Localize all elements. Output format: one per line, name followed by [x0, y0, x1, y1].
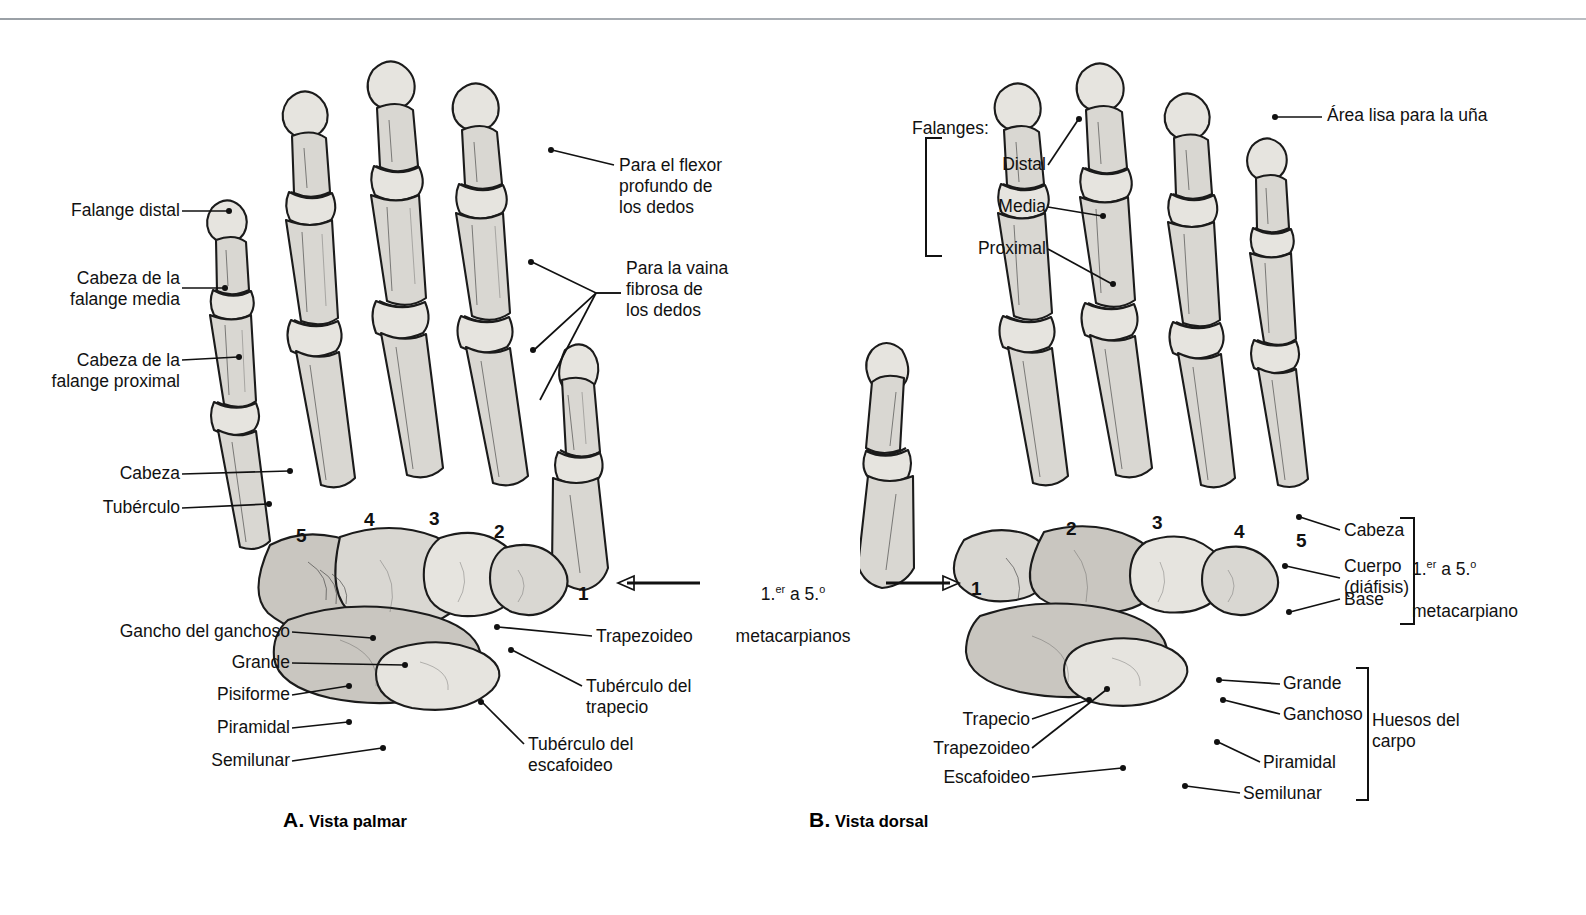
digit5-bones	[207, 200, 270, 549]
label-huesos-del-carpo: Huesos del carpo	[1372, 710, 1512, 752]
label-falange-distal: Falange distal	[10, 200, 180, 221]
label-cabeza: Cabeza	[10, 463, 180, 484]
label-falanges-group: Falanges:	[912, 118, 1052, 139]
label-proximal-b: Proximal	[900, 238, 1046, 259]
label-trapecio-b: Trapecio	[880, 709, 1030, 730]
digit4-bones	[283, 91, 355, 487]
panel-b-caption: B. Vista dorsal	[809, 808, 928, 832]
carpal-bones-dorsal	[954, 526, 1278, 706]
label-piramidal-b: Piramidal	[1263, 752, 1393, 773]
label-piramidal: Piramidal	[60, 717, 290, 738]
label-distal-b: Distal	[900, 154, 1046, 175]
header-rule	[0, 18, 1586, 20]
label-bracket-metacarpiano: 1.er a 5.o metacarpiano	[1412, 538, 1572, 622]
label-escafoideo-b: Escafoideo	[880, 767, 1030, 788]
bracket-metacarpiano-line1: 1.er a 5.o	[1412, 559, 1476, 579]
label-semilunar: Semilunar	[60, 750, 290, 771]
label-cabeza-falange-proximal: Cabeza de la falange proximal	[10, 350, 180, 392]
label-pisiforme: Pisiforme	[60, 684, 290, 705]
label-media-b: Media	[900, 196, 1046, 217]
center-callout-line2: metacarpianos	[736, 626, 851, 646]
metacarpal-number-b-4: 4	[1234, 521, 1245, 543]
bracket-metacarpiano-line2: metacarpiano	[1412, 601, 1518, 621]
metacarpal-number-4: 4	[364, 509, 375, 531]
label-grande: Grande	[60, 652, 290, 673]
metacarpal-number-b-3: 3	[1152, 512, 1163, 534]
panel-a-caption: A. Vista palmar	[283, 808, 407, 832]
metacarpal-number-2: 2	[494, 521, 505, 543]
label-tuberculo-del-trapecio: Tubérculo del trapecio	[586, 676, 806, 718]
panel-a-letter: A.	[283, 808, 305, 831]
metacarpal-number-5: 5	[296, 525, 307, 547]
top-cropped-heading	[770, 0, 1570, 9]
panel-b-caption-text: Vista dorsal	[835, 812, 928, 830]
carpal-bones-palmar	[258, 528, 567, 710]
metacarpal-number-b-5: 5	[1296, 530, 1307, 552]
metacarpal-number-3: 3	[429, 508, 440, 530]
label-vaina-fibrosa: Para la vaina fibrosa de los dedos	[626, 258, 826, 321]
digit3-bones-dorsal	[1077, 63, 1152, 477]
label-semilunar-b: Semilunar	[1243, 783, 1373, 804]
label-tuberculo: Tubérculo	[10, 497, 180, 518]
figure-canvas: 5 4 3 2 1 Falange distal Cabeza de la fa…	[0, 0, 1586, 915]
label-gancho-del-ganchoso: Gancho del ganchoso	[0, 621, 290, 642]
digit5-bones-dorsal	[1247, 138, 1308, 487]
label-area-lisa-una: Área lisa para la uña	[1327, 105, 1586, 126]
label-tuberculo-del-escafoideo: Tubérculo del escafoideo	[528, 734, 748, 776]
digit4-bones-dorsal	[1165, 93, 1235, 487]
label-trapezoideo-b: Trapezoideo	[860, 738, 1030, 759]
label-flexor-profundo: Para el flexor profundo de los dedos	[619, 155, 819, 218]
digit2-bones-dorsal	[995, 83, 1068, 485]
thumb-bones-dorsal	[860, 343, 914, 588]
label-cabeza-falange-media: Cabeza de la falange media	[10, 268, 180, 310]
digit2-bones	[453, 83, 528, 485]
label-grande-b: Grande	[1283, 673, 1413, 694]
digit3-bones	[368, 61, 443, 477]
thumb-bones	[552, 344, 608, 590]
center-callout-line1: 1.er a 5.o	[761, 584, 825, 604]
metacarpal-number-1: 1	[578, 583, 589, 605]
panel-a-caption-text: Vista palmar	[309, 812, 407, 830]
panel-b-letter: B.	[809, 808, 831, 831]
metacarpal-number-b-1: 1	[971, 578, 982, 600]
metacarpal-number-b-2: 2	[1066, 518, 1077, 540]
center-callout-metacarpianos: 1.er a 5.o metacarpianos	[703, 563, 883, 647]
